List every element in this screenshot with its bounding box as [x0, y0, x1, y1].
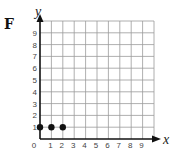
y-tick-label: 8 — [33, 41, 38, 50]
panel-label: F — [4, 16, 14, 32]
data-point — [37, 124, 43, 130]
coordinate-grid-chart: F y x 0123456789 123456789 — [0, 0, 178, 163]
grid-lines — [40, 21, 154, 139]
data-points — [37, 124, 66, 130]
y-axis-label: y — [33, 4, 42, 19]
x-axis-label: x — [162, 132, 170, 147]
y-tick-label: 4 — [33, 88, 38, 97]
y-tick-label: 6 — [33, 64, 38, 73]
data-point — [60, 124, 66, 130]
y-tick-label: 9 — [33, 29, 38, 38]
x-tick-label: 0 — [32, 141, 37, 150]
x-axis-arrow-icon — [152, 136, 161, 143]
x-tick-label: 6 — [105, 141, 110, 150]
x-tick-label: 5 — [94, 141, 99, 150]
y-tick-label: 7 — [33, 52, 38, 61]
y-tick-label: 5 — [33, 76, 38, 85]
x-tick-label: 4 — [82, 141, 87, 150]
data-point — [48, 124, 54, 130]
y-tick-label: 1 — [33, 123, 38, 132]
x-tick-label: 1 — [48, 141, 53, 150]
y-tick-labels: 123456789 — [33, 29, 38, 132]
x-tick-label: 8 — [128, 141, 133, 150]
x-tick-label: 2 — [60, 141, 65, 150]
y-tick-label: 2 — [33, 111, 38, 120]
y-tick-label: 3 — [33, 100, 38, 109]
x-tick-label: 3 — [71, 141, 76, 150]
x-tick-labels: 0123456789 — [32, 141, 145, 150]
x-tick-label: 7 — [117, 141, 122, 150]
x-tick-label: 9 — [139, 141, 144, 150]
